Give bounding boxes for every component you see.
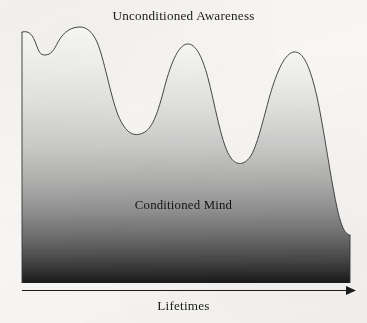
x-axis-label: Lifetimes — [0, 297, 367, 314]
figure-root: Unconditioned Awareness Conditioned Mind… — [0, 0, 367, 323]
conditioned-mind-area-chart — [0, 0, 367, 323]
right-arrow-icon — [346, 286, 356, 295]
conditioned-mind-area-fill — [22, 27, 350, 283]
conditioned-mind-label: Conditioned Mind — [0, 197, 367, 214]
page-title: Unconditioned Awareness — [0, 7, 367, 24]
